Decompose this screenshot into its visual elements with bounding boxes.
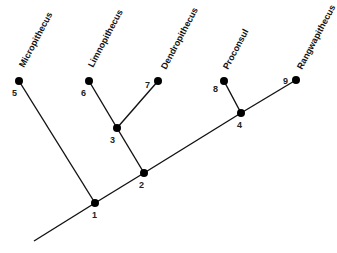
node-number-3: 3 [110, 135, 115, 145]
taxon-labels: Micropithecus Limnopithecus Dendropithec… [17, 3, 337, 71]
cladogram: 1 2 3 4 5 6 7 8 9 Micropithecus Limnopit… [0, 0, 337, 253]
edges [19, 80, 296, 241]
node-9 [292, 76, 300, 84]
taxon-label-rangwapithecus: Rangwapithecus [295, 3, 337, 71]
node-number-2: 2 [139, 180, 144, 190]
node-4 [237, 109, 245, 117]
edge-root-1 [34, 203, 95, 241]
taxon-label-micropithecus: Micropithecus [17, 10, 54, 69]
node-numbers: 1 2 3 4 5 6 7 8 9 [12, 76, 288, 220]
edge-3-7 [117, 81, 158, 128]
node-number-9: 9 [283, 76, 288, 86]
taxon-label-dendropithecus: Dendropithecus [159, 6, 200, 71]
node-6 [85, 77, 93, 85]
taxon-label-proconsul: Proconsul [221, 27, 250, 71]
node-number-4: 4 [237, 120, 242, 130]
node-8 [220, 77, 228, 85]
node-number-7: 7 [145, 80, 150, 90]
edge-4-8 [224, 81, 241, 113]
node-number-8: 8 [213, 84, 218, 94]
edge-1-5 [19, 81, 95, 203]
edge-3-6 [89, 81, 117, 128]
node-7 [154, 77, 162, 85]
nodes [15, 76, 300, 207]
taxon-label-limnopithecus: Limnopithecus [86, 8, 125, 69]
node-2 [140, 169, 148, 177]
node-number-1: 1 [92, 210, 97, 220]
node-1 [91, 199, 99, 207]
edge-1-2 [95, 173, 144, 203]
edge-2-4 [144, 113, 241, 173]
edge-2-3 [117, 128, 144, 173]
node-5 [15, 77, 23, 85]
node-3 [113, 124, 121, 132]
node-number-5: 5 [12, 88, 17, 98]
node-number-6: 6 [81, 88, 86, 98]
